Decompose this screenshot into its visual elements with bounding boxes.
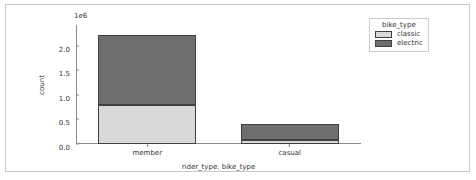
y-tick-label: 0.0	[59, 145, 76, 152]
bar-segment[interactable]	[98, 35, 196, 105]
bar-segment[interactable]	[241, 140, 339, 144]
y-tick-label: 1.0	[59, 95, 76, 102]
x-tick: member	[132, 144, 162, 157]
y-tick: 0.0	[59, 135, 76, 154]
y-axis-spine	[76, 25, 77, 144]
y-axis-label: count	[38, 75, 46, 95]
legend-label: electric	[397, 40, 423, 47]
legend-entry[interactable]: classic	[375, 31, 423, 38]
y-tick-mark	[76, 70, 79, 71]
legend-swatch-classic	[375, 31, 392, 38]
legend-entries: classicelectric	[375, 31, 423, 47]
y-tick: 2.0	[59, 36, 76, 55]
y-tick-label: 2.0	[59, 46, 76, 53]
bar-segment[interactable]	[98, 105, 196, 144]
figure-canvas: 1e6 count 0.00.51.01.52.0 membercasual r…	[5, 4, 470, 172]
x-tick-label: casual	[279, 150, 301, 157]
y-tick-label: 0.5	[59, 120, 76, 127]
y-tick-mark	[76, 45, 79, 46]
x-tick-label: member	[132, 150, 162, 157]
x-tick-mark	[147, 144, 148, 147]
x-tick: casual	[279, 144, 301, 157]
y-tick-mark	[76, 94, 79, 95]
bar-segment[interactable]	[241, 124, 339, 140]
y-tick: 0.5	[59, 110, 76, 129]
legend-label: classic	[397, 31, 420, 38]
y-tick: 1.5	[59, 61, 76, 80]
legend-entry[interactable]: electric	[375, 40, 423, 47]
plot-area: 1e6 count 0.00.51.01.52.0 membercasual r…	[76, 25, 361, 144]
y-tick-label: 1.5	[59, 71, 76, 78]
x-tick-mark	[289, 144, 290, 147]
chart-axes: 1e6 count 0.00.51.01.52.0 membercasual r…	[76, 25, 361, 144]
y-tick-mark	[76, 119, 79, 120]
y-tick-mark	[76, 144, 79, 145]
y-tick: 1.0	[59, 85, 76, 104]
legend: bike_type classicelectric	[369, 18, 429, 52]
y-axis-offset-label: 1e6	[74, 12, 87, 20]
x-axis-label: rider_type, bike_type	[182, 163, 256, 171]
legend-title: bike_type	[375, 22, 423, 29]
legend-swatch-electric	[375, 40, 392, 47]
